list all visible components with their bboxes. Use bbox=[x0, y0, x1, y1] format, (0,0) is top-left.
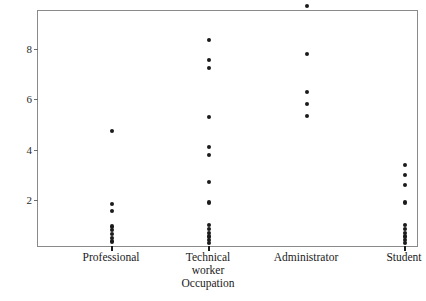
data-point bbox=[207, 66, 211, 70]
x-category-label-1: Technical worker bbox=[186, 251, 231, 277]
strip-plot-figure: 2468 ProfessionalTechnical workerAdminis… bbox=[0, 0, 426, 301]
y-tick-label: 4 bbox=[27, 144, 33, 155]
data-point bbox=[207, 180, 211, 184]
x-category-label-0: Professional bbox=[83, 251, 140, 264]
data-point bbox=[207, 200, 211, 204]
data-point bbox=[305, 114, 309, 118]
data-point bbox=[207, 153, 211, 157]
data-point bbox=[403, 173, 407, 177]
plot-frame: 2468 bbox=[37, 10, 418, 247]
x-axis-title: Occupation bbox=[181, 277, 234, 290]
y-tick-label: 2 bbox=[27, 195, 33, 206]
data-point bbox=[403, 163, 407, 167]
data-point bbox=[403, 183, 407, 187]
data-point bbox=[207, 58, 211, 62]
data-point bbox=[403, 200, 407, 204]
data-point bbox=[110, 129, 114, 133]
data-point bbox=[403, 241, 407, 245]
x-category-label-2: Administrator bbox=[274, 251, 339, 264]
data-point bbox=[305, 90, 309, 94]
x-category-label-3: Student bbox=[386, 251, 421, 264]
y-tick-label: 6 bbox=[27, 94, 33, 105]
data-point bbox=[207, 241, 211, 245]
data-point bbox=[305, 102, 309, 106]
plot-data-area bbox=[38, 11, 417, 246]
data-point bbox=[305, 4, 309, 8]
y-tick-label: 8 bbox=[27, 44, 33, 55]
data-point bbox=[207, 145, 211, 149]
data-point bbox=[110, 202, 114, 206]
data-point bbox=[305, 52, 309, 56]
data-point bbox=[207, 115, 211, 119]
data-point bbox=[110, 209, 114, 213]
data-point bbox=[110, 239, 114, 243]
data-point bbox=[207, 38, 211, 42]
